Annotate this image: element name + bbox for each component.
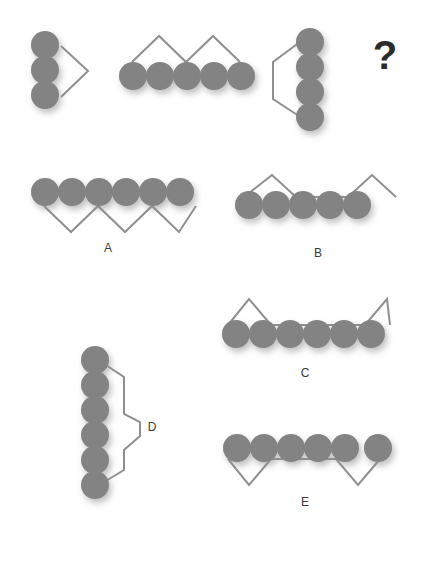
figure-circle <box>227 62 255 90</box>
puzzle-canvas: ? ABCDE <box>0 0 422 579</box>
figure-circle <box>289 191 317 219</box>
figure-circle <box>31 31 59 59</box>
figure-circle <box>343 191 371 219</box>
figure-circle <box>31 178 59 206</box>
figure-circle <box>119 62 147 90</box>
question-mark-glyph: ? <box>373 33 397 77</box>
figure-circle <box>276 320 304 348</box>
figure-circle <box>277 434 305 462</box>
option-label-b: B <box>314 246 322 260</box>
option-label-d: D <box>148 420 157 434</box>
figure-circle <box>81 471 109 499</box>
figure-circle <box>330 320 358 348</box>
figure-circle <box>173 62 201 90</box>
figure-circle <box>296 103 324 131</box>
figure-circle <box>303 320 331 348</box>
figure-circle <box>166 178 194 206</box>
figure-circle <box>262 191 290 219</box>
figure-circle <box>81 396 109 424</box>
figure-circle <box>364 434 392 462</box>
figure-circle <box>249 320 277 348</box>
figure-circle <box>146 62 174 90</box>
figure-circle <box>304 434 332 462</box>
figure-circle <box>31 81 59 109</box>
figure-circle <box>296 53 324 81</box>
option-label-a: A <box>104 241 112 255</box>
figure-circle <box>296 28 324 56</box>
figure-circle <box>112 178 140 206</box>
option-label-e: E <box>301 495 309 509</box>
figure-circle <box>223 434 251 462</box>
figure-circle <box>296 78 324 106</box>
figure-circle <box>81 446 109 474</box>
figure-circle <box>139 178 167 206</box>
figure-circle <box>357 320 385 348</box>
figure-circle <box>235 191 263 219</box>
figure-circle <box>31 56 59 84</box>
figure-circle <box>331 434 359 462</box>
figure-circle <box>250 434 278 462</box>
figure-circle <box>58 178 86 206</box>
figure-circle <box>316 191 344 219</box>
figure-circle <box>222 320 250 348</box>
figure-circle <box>85 178 113 206</box>
question-cell: ? <box>373 33 397 77</box>
option-label-c: C <box>301 366 310 380</box>
figure-circle <box>81 346 109 374</box>
figure-circle <box>81 371 109 399</box>
figure-circle <box>200 62 228 90</box>
figure-circle <box>81 421 109 449</box>
